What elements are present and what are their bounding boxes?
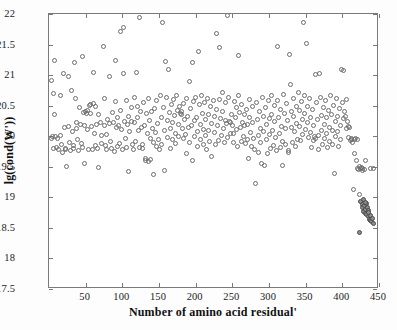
x-tick-label: 200 [187,291,203,302]
data-point [239,102,244,107]
data-point [317,71,322,76]
data-point [99,133,104,138]
data-point [117,141,122,146]
data-point [216,138,221,143]
data-point [221,126,226,131]
y-axis-tick [49,289,53,290]
data-point [96,112,101,117]
data-point [287,52,292,57]
data-point [52,58,57,63]
data-point [195,129,200,134]
data-point [49,78,54,83]
data-point [270,128,275,133]
data-point [245,122,250,127]
data-point [275,98,280,103]
data-point [315,117,320,122]
data-point [153,130,158,135]
data-point [51,91,56,96]
data-point [148,157,153,162]
data-point [263,105,268,110]
y-tick-label: 19 [4,191,15,202]
data-point [203,117,208,122]
data-point [217,45,222,50]
data-point [123,136,128,141]
data-point [322,122,327,127]
data-point [115,115,120,120]
data-point [118,108,123,113]
data-point [220,90,225,95]
data-point [131,147,136,152]
data-point [107,74,112,79]
data-point [256,133,261,138]
data-point [335,114,340,119]
data-point [269,112,274,117]
data-point [357,230,362,235]
data-point [223,100,228,105]
data-point [370,216,375,221]
data-point [147,118,152,123]
data-point [201,127,206,132]
data-point [202,100,207,105]
data-point [88,111,93,116]
data-point [82,161,87,166]
data-point [166,67,171,72]
data-point [243,141,248,146]
data-point [275,44,280,49]
data-point [226,95,231,100]
data-point [72,60,77,65]
data-point [283,142,288,147]
data-point [236,53,241,58]
y-tick-label: 17.5 [0,283,15,294]
data-point [189,123,194,128]
data-point [140,146,145,151]
data-point [331,103,336,108]
data-point [110,110,115,115]
data-point [330,142,335,147]
data-point [293,144,298,149]
data-point [73,96,78,101]
data-point [248,130,253,135]
data-point [158,93,163,98]
data-point [199,93,204,98]
data-point [284,101,289,106]
data-point [298,138,303,143]
data-point [253,181,258,186]
data-point [265,151,270,156]
data-point [133,139,138,144]
data-point [173,141,178,146]
data-point [92,131,97,136]
data-point [58,93,63,98]
data-point [264,137,269,142]
data-point [297,108,302,113]
data-point [283,126,288,131]
x-tick-label: 50 [79,291,90,302]
data-point [273,135,278,140]
data-point [204,147,209,152]
scatter-plot-figure: lg(cond(W')) Number of amino acid residu… [0,0,397,330]
data-point [102,96,107,101]
data-point [169,102,174,107]
x-tick-label: 400 [333,291,349,302]
data-point [209,121,214,126]
data-point [301,20,306,25]
data-point [214,107,219,112]
data-point [104,132,109,137]
x-tick-label: 100 [113,291,129,302]
data-point [281,92,286,97]
data-point [66,74,71,79]
data-point [211,98,216,103]
data-point [80,54,85,59]
data-point [157,147,162,152]
data-point [362,167,367,172]
data-point [126,114,131,119]
data-point [118,29,123,34]
data-point [343,114,348,119]
data-point [168,126,173,131]
data-point [135,115,140,120]
data-point [347,125,352,130]
data-point [184,96,189,101]
data-point [58,133,63,138]
data-point [235,144,240,149]
data-point [292,129,297,134]
data-point [185,114,190,119]
